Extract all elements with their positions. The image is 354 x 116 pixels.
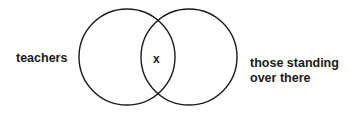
label-those-standing: those standing over there	[250, 56, 350, 86]
circle-teachers	[79, 9, 175, 105]
label-line-1: those standing	[250, 56, 350, 71]
label-intersection: x	[153, 52, 160, 67]
label-line-2: over there	[250, 71, 350, 86]
label-teachers: teachers	[16, 51, 67, 66]
